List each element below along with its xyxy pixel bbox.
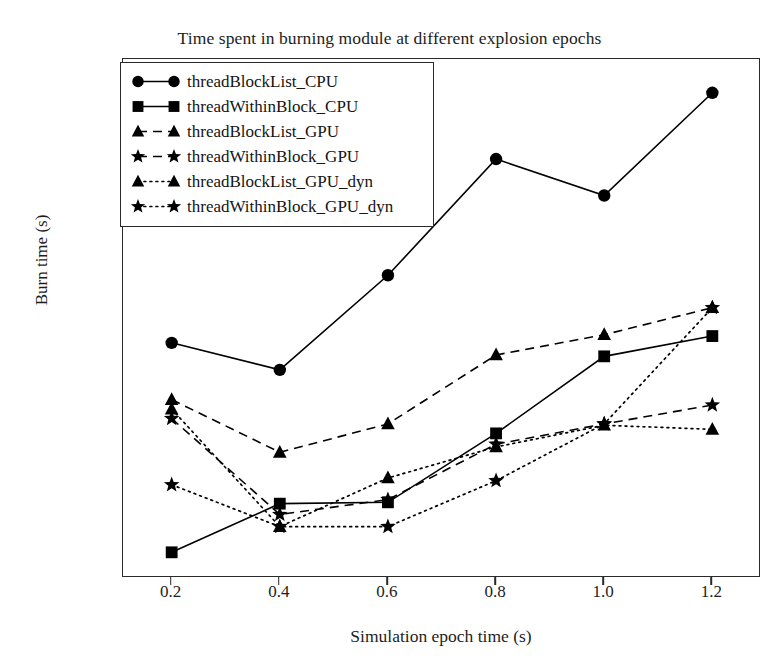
data-point-marker: [382, 269, 394, 281]
data-point-marker: [168, 175, 181, 187]
data-point-marker: [167, 149, 181, 163]
chart-title: Time spent in burning module at differen…: [0, 28, 779, 49]
x-tick-mark: [278, 577, 280, 585]
data-point-marker: [705, 397, 721, 412]
x-tick-label: 1.2: [671, 582, 751, 602]
legend-sample-canvas: [129, 169, 183, 194]
data-point-marker: [168, 76, 179, 87]
x-tick-label: 1.0: [563, 582, 643, 602]
legend-marker-sample: [129, 144, 183, 169]
legend-marker-sample: [129, 119, 183, 144]
data-point-marker: [490, 153, 502, 165]
data-point-marker: [131, 149, 145, 163]
data-point-marker: [706, 87, 718, 99]
legend-label: threadBlockList_CPU: [183, 72, 338, 92]
legend-sample-canvas: [129, 194, 183, 219]
data-point-marker: [597, 327, 611, 340]
x-tick-label: 0.6: [347, 582, 427, 602]
data-point-marker: [133, 101, 144, 112]
data-point-marker: [167, 199, 181, 213]
series-threadWithinBlock_GPU_dyn: [164, 299, 720, 533]
x-tick-mark: [602, 577, 604, 585]
data-point-marker: [488, 472, 504, 487]
data-point-marker: [165, 337, 177, 349]
series-threadWithinBlock_GPU: [164, 397, 720, 521]
legend-marker-sample: [129, 94, 183, 119]
series-line: [172, 308, 713, 527]
data-point-marker: [381, 417, 395, 430]
data-point-marker: [598, 350, 610, 362]
x-tick-mark: [494, 577, 496, 585]
data-point-marker: [274, 364, 286, 376]
legend-label: threadBlockList_GPU: [183, 122, 339, 142]
data-point-marker: [168, 125, 181, 137]
data-point-marker: [166, 546, 178, 558]
x-tick-label: 0.4: [239, 582, 319, 602]
data-point-marker: [132, 76, 143, 87]
legend-marker-sample: [129, 194, 183, 219]
legend-marker-sample: [129, 69, 183, 94]
legend-sample-canvas: [129, 144, 183, 169]
y-axis-label: Burn time (s): [32, 160, 52, 360]
legend-label: threadWithinBlock_CPU: [183, 97, 358, 117]
series-threadBlockList_GPU_dyn: [165, 402, 719, 532]
legend-item-threadBlockList_GPU[interactable]: threadBlockList_GPU: [129, 119, 425, 144]
x-tick-mark: [386, 577, 388, 585]
legend-sample-canvas: [129, 69, 183, 94]
legend-item-threadWithinBlock_GPU[interactable]: threadWithinBlock_GPU: [129, 144, 425, 169]
series-line: [172, 336, 713, 552]
data-point-marker: [706, 422, 720, 435]
legend-item-threadBlockList_GPU_dyn[interactable]: threadBlockList_GPU_dyn: [129, 169, 425, 194]
x-tick-label: 0.8: [455, 582, 535, 602]
data-point-marker: [132, 175, 145, 187]
data-point-marker: [131, 199, 145, 213]
series-line: [172, 308, 713, 453]
x-tick-mark: [170, 577, 172, 585]
chart-figure: Time spent in burning module at differen…: [0, 0, 779, 666]
data-point-marker: [169, 101, 180, 112]
series-threadWithinBlock_CPU: [166, 330, 718, 558]
data-point-marker: [598, 189, 610, 201]
legend-item-threadWithinBlock_GPU_dyn[interactable]: threadWithinBlock_GPU_dyn: [129, 194, 425, 219]
legend-item-threadBlockList_CPU[interactable]: threadBlockList_CPU: [129, 69, 425, 94]
series-threadBlockList_GPU: [165, 300, 719, 457]
data-point-marker: [706, 330, 718, 342]
legend-sample-canvas: [129, 94, 183, 119]
legend-marker-sample: [129, 169, 183, 194]
legend-label: threadBlockList_GPU_dyn: [183, 172, 373, 192]
legend-label: threadWithinBlock_GPU: [183, 147, 359, 167]
legend-sample-canvas: [129, 119, 183, 144]
legend: threadBlockList_CPUthreadWithinBlock_CPU…: [120, 62, 434, 227]
x-tick-mark: [711, 577, 713, 585]
x-axis-label: Simulation epoch time (s): [122, 626, 760, 647]
legend-label: threadWithinBlock_GPU_dyn: [183, 197, 393, 217]
x-tick-label: 0.2: [131, 582, 211, 602]
data-point-marker: [164, 477, 180, 492]
data-point-marker: [380, 518, 396, 533]
data-point-marker: [132, 125, 145, 137]
legend-item-threadWithinBlock_CPU[interactable]: threadWithinBlock_CPU: [129, 94, 425, 119]
